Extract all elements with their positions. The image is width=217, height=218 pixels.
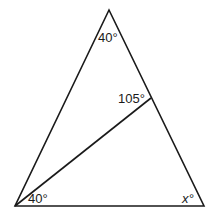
- cevian-angle-label: 105°: [118, 91, 145, 106]
- triangle-diagram: 40° 105° 40° x°: [0, 0, 217, 218]
- top-angle-label: 40°: [98, 30, 118, 45]
- bottom-right-angle-label: x°: [181, 191, 194, 206]
- cevian-line: [15, 98, 151, 206]
- bottom-left-angle-label: 40°: [28, 191, 48, 206]
